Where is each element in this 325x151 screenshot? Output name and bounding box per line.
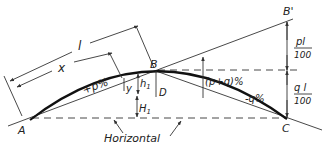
l-dimension-right [90, 26, 138, 43]
label-H1: H1 [139, 103, 151, 116]
x-dimension-left [17, 71, 52, 87]
fraction-pl-denominator: 100 [294, 50, 311, 60]
label-horizontal: Horizontal [104, 132, 160, 145]
horizontal-leader-right [170, 121, 181, 136]
label-point-b: B [150, 58, 158, 71]
label-h1: h1 [140, 78, 151, 91]
label-point-b-prime: B' [283, 5, 294, 18]
fraction-pl-numerator: pl [295, 36, 305, 47]
label-algebraic-difference: (p+q)% [205, 76, 243, 87]
label-point-c: C [282, 122, 290, 135]
label-l: l [78, 39, 82, 53]
fraction-ql-numerator: q l [294, 82, 307, 93]
x-dimension-right [74, 53, 112, 62]
label-exit-grade: -q% [245, 93, 264, 104]
label-point-a: A [17, 124, 26, 137]
vertical-curve-diagram: A B B' C D l x y h1 H1 +p% -q% (p+q)% pl… [0, 0, 325, 151]
fraction-ql-denominator: 100 [294, 96, 311, 106]
label-y: y [125, 83, 133, 94]
label-point-d: D [159, 87, 167, 98]
label-x: x [57, 61, 66, 75]
